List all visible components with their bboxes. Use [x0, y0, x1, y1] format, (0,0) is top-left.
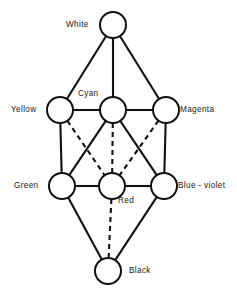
- node-label-white: White: [66, 20, 89, 30]
- edge-red-black: [109, 199, 112, 258]
- node-yellow[interactable]: [47, 97, 73, 123]
- node-label-black: Black: [129, 266, 151, 276]
- edge-white-magenta: [120, 36, 159, 99]
- node-blue-violet[interactable]: [151, 173, 177, 199]
- node-black[interactable]: [95, 258, 121, 284]
- node-label-red: Red: [118, 196, 134, 206]
- node-label-magenta: Magenta: [180, 105, 214, 115]
- color-cube-diagram: WhiteYellowCyanMagentaGreenRedBlue - vio…: [0, 0, 237, 298]
- node-green[interactable]: [49, 173, 75, 199]
- color-graph-svg: [0, 0, 237, 298]
- node-label-yellow: Yellow: [11, 105, 36, 115]
- edge-cyan-red: [112, 123, 113, 173]
- node-white[interactable]: [100, 12, 126, 38]
- node-cyan[interactable]: [100, 97, 126, 123]
- node-label-blue-violet: Blue - violet: [178, 181, 225, 191]
- node-label-cyan: Cyan: [78, 89, 99, 99]
- edge-green-black: [68, 197, 102, 259]
- edge-yellow-green: [60, 123, 61, 173]
- edge-magenta-blue-violet: [164, 123, 165, 173]
- node-label-green: Green: [14, 181, 39, 191]
- node-magenta[interactable]: [153, 97, 179, 123]
- edge-blue-violet-black: [115, 197, 157, 260]
- edge-layer: [60, 36, 165, 260]
